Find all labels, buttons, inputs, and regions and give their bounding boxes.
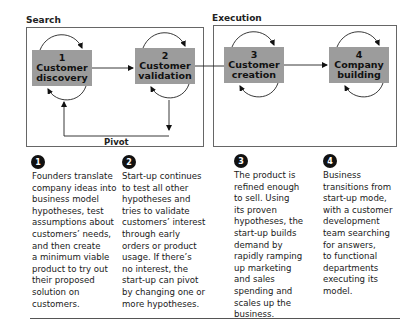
stage-title-line2: discovery	[36, 73, 87, 83]
step-description-1: Founders translate company ideas into bu…	[32, 171, 116, 310]
step-badge-1: 1	[31, 155, 45, 169]
step-badge-2: 2	[122, 155, 136, 169]
step-description-4: Business transitions from start-up mode,…	[323, 170, 392, 298]
pivot-label: Pivot	[104, 137, 129, 147]
step-description-2: Start-up continues to test all other hyp…	[122, 171, 205, 310]
bottom-divider	[30, 318, 400, 319]
stage-title-line2: building	[337, 70, 381, 80]
step-description-3: The product is refined enough to sell. U…	[234, 170, 303, 321]
stage-box-company-building: 4 Company building	[329, 47, 389, 83]
step-badge-4: 4	[323, 154, 337, 168]
stage-title-line2: creation	[232, 70, 276, 80]
stage-box-customer-creation: 3 Customer creation	[224, 47, 284, 83]
stage-box-customer-validation: 2 Customer validation	[135, 48, 195, 84]
stage-box-customer-discovery: 1 Customer discovery	[32, 50, 92, 86]
step-badge-3: 3	[234, 154, 248, 168]
stage-title-line2: validation	[138, 71, 191, 81]
